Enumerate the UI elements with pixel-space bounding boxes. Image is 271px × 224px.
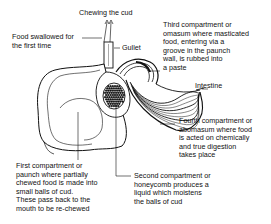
honeycomb-cell — [109, 92, 111, 94]
label-gullet: Gullet — [122, 44, 141, 53]
abomasum-fold — [132, 87, 199, 114]
honeycomb-cell — [104, 96, 106, 98]
honeycomb-cell — [112, 85, 114, 87]
label-intestine: Intestine — [195, 82, 222, 91]
honeycomb-cell — [116, 103, 118, 105]
honeycomb-cell — [110, 94, 112, 96]
label-third-compartment: Third compartment or omasum where mastic… — [163, 21, 249, 73]
honeycomb-cell — [112, 90, 114, 92]
honeycomb-cell — [114, 85, 116, 87]
honeycomb-cell — [107, 101, 109, 103]
honeycomb-cell — [111, 92, 113, 94]
honeycomb-cell — [110, 103, 112, 105]
honeycomb-cell — [108, 99, 110, 101]
honeycomb-cell — [118, 96, 120, 98]
honeycomb-cell — [114, 103, 116, 105]
honeycomb-cell — [120, 96, 122, 98]
ruminant-stomach-diagram: Chewing the cud Food swallowed for the f… — [0, 0, 271, 224]
honeycomb-cell — [113, 92, 115, 94]
honeycomb-cell — [119, 85, 121, 87]
honeycomb-cell — [112, 99, 114, 101]
honeycomb-cell — [109, 105, 111, 107]
honeycomb-cell — [114, 99, 116, 101]
gullet-tube — [104, 42, 113, 68]
honeycomb-cell — [119, 94, 121, 96]
honeycomb-cell — [118, 105, 120, 107]
honeycomb-cell — [114, 94, 116, 96]
honeycomb-cell — [116, 90, 118, 92]
honeycomb-cell — [119, 103, 121, 105]
honeycomb-cell — [111, 88, 113, 90]
honeycomb-cell — [113, 88, 115, 90]
honeycomb-cell — [110, 99, 112, 101]
honeycomb-cell — [119, 99, 121, 101]
honeycomb-cell — [112, 103, 114, 105]
honeycomb-cell — [118, 92, 120, 94]
honeycomb-cell — [107, 92, 109, 94]
honeycomb-cell — [108, 85, 110, 87]
honeycomb-cell — [105, 99, 107, 101]
honeycomb-cell — [122, 92, 124, 94]
honeycomb-cell — [113, 101, 115, 103]
honeycomb-cell — [118, 101, 120, 103]
honeycomb-cell — [108, 94, 110, 96]
honeycomb-cell — [120, 88, 122, 90]
honeycomb-cell — [122, 101, 124, 103]
honeycomb-cell — [121, 99, 123, 101]
honeycomb-cell — [121, 94, 123, 96]
honeycomb-cell — [111, 101, 113, 103]
intestine-top — [156, 84, 200, 92]
label-chewing-cud: Chewing the cud — [79, 9, 133, 18]
honeycomb-cell — [107, 96, 109, 98]
honeycomb-cell — [112, 94, 114, 96]
honeycomb-cell — [115, 92, 117, 94]
honeycomb-cell — [107, 88, 109, 90]
honeycomb-cell — [120, 92, 122, 94]
honeycomb-cell — [108, 103, 110, 105]
honeycomb-cell — [109, 88, 111, 90]
honeycomb-cell — [111, 105, 113, 107]
honeycomb-cell — [104, 92, 106, 94]
arrow-up-right — [110, 22, 111, 42]
honeycomb-cell — [121, 90, 123, 92]
honeycomb-cell — [109, 101, 111, 103]
honeycomb-cell — [113, 96, 115, 98]
honeycomb-cell — [110, 90, 112, 92]
honeycomb-cell — [118, 88, 120, 90]
honeycomb-cell — [116, 99, 118, 101]
honeycomb-cell — [108, 90, 110, 92]
honeycomb-cell — [119, 90, 121, 92]
honeycomb-cell — [109, 96, 111, 98]
cud-arrows — [104, 20, 113, 42]
label-second-compartment: Second compartment or honeycomb produces… — [134, 172, 211, 206]
honeycomb-cell — [105, 94, 107, 96]
honeycomb-cell — [123, 94, 125, 96]
honeycomb-cell — [120, 101, 122, 103]
honeycomb-cell — [114, 90, 116, 92]
honeycomb-cell — [122, 96, 124, 98]
honeycomb-cell — [115, 96, 117, 98]
omasum-fold-2 — [124, 66, 149, 82]
label-food-swallowed: Food swallowed for the first time — [12, 33, 74, 50]
label-first-compartment: First compartment or paunch where partia… — [16, 162, 98, 214]
honeycomb-cell — [115, 88, 117, 90]
honeycomb-cell — [113, 105, 115, 107]
honeycomb-cell — [115, 101, 117, 103]
arrow-up-left — [104, 22, 107, 42]
honeycomb-cell — [116, 94, 118, 96]
honeycomb-cell — [105, 90, 107, 92]
label-fourth-compartment: Fourth compartment or abomasum where foo… — [179, 117, 252, 160]
honeycomb-cell — [116, 85, 118, 87]
honeycomb-cell — [111, 96, 113, 98]
honeycomb-cell — [110, 85, 112, 87]
